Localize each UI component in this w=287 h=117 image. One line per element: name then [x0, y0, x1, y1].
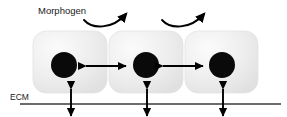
morphogen-cell-ecm-diagram: Morphogen ECM: [0, 0, 287, 117]
cell-nucleus: [133, 52, 159, 78]
cell-nucleus: [51, 52, 77, 78]
morphogen-arc-left-icon: [84, 14, 126, 26]
morphogen-arc-layer: [84, 14, 204, 26]
morphogen-label: Morphogen: [38, 5, 86, 16]
diagram-canvas: Morphogen ECM: [0, 0, 287, 117]
cell-right: [185, 31, 258, 93]
morphogen-arc-right-icon: [162, 14, 204, 26]
cell-middle: [109, 31, 183, 93]
cell-left: [33, 31, 107, 93]
cell-nucleus: [209, 52, 235, 78]
ecm-label: ECM: [10, 92, 29, 102]
cell-layer: [33, 31, 258, 93]
